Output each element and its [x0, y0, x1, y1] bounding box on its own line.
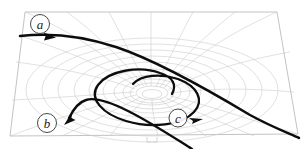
trajectory-a-hyperbolic-flyby: [20, 33, 299, 139]
trajectory-c-arrowhead: [189, 118, 203, 124]
gravity-well-figure: a b c: [0, 0, 305, 149]
base-tick-mark: [147, 137, 157, 142]
label-b[interactable]: b: [38, 114, 57, 133]
label-c-text: c: [175, 111, 181, 126]
label-b-text: b: [44, 116, 51, 131]
grid-concentric-rings: [26, 38, 278, 142]
figure-canvas: a b c: [0, 0, 305, 149]
label-a[interactable]: a: [31, 15, 50, 34]
label-a-text: a: [37, 17, 44, 32]
label-c[interactable]: c: [169, 109, 187, 127]
